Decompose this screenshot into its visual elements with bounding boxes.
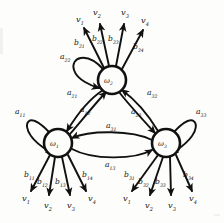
state-label-w3: ω3 xyxy=(158,140,167,150)
symbol-label-v4-bl: v4 xyxy=(88,194,96,205)
arc-label-b34: b34 xyxy=(183,171,194,181)
arc-label-a32: a32 xyxy=(147,89,158,99)
transition-a13 xyxy=(72,149,152,157)
arc-label-a33: a33 xyxy=(196,108,207,118)
arc-label-b22: b22 xyxy=(92,35,103,45)
arc-label-b13: b13 xyxy=(55,178,66,188)
arc-label-b31: b31 xyxy=(124,171,135,181)
state-label-w2: ω2 xyxy=(104,77,113,87)
arc-label-b33: b33 xyxy=(155,178,166,188)
arc-label-b24: b24 xyxy=(133,43,144,53)
symbol-label-v3-bl: v3 xyxy=(67,201,75,212)
arc-label-a23: a23 xyxy=(131,108,142,118)
arc-label-b21: b21 xyxy=(74,39,85,49)
arc-label-b14: b14 xyxy=(82,171,93,181)
arc-label-b12: b12 xyxy=(37,178,48,188)
scan-artifact-left xyxy=(0,28,3,54)
symbol-label-v2-br: v2 xyxy=(145,201,153,212)
arc-label-a22: a22 xyxy=(60,53,71,63)
scan-artifact-bottom xyxy=(214,214,220,216)
symbol-label-v2-bl: v2 xyxy=(44,201,52,212)
symbol-label-v1-top: v1 xyxy=(76,15,84,26)
emission-arrow-b13 xyxy=(62,157,70,195)
symbol-label-v3-br: v3 xyxy=(168,201,176,212)
arc-label-a21: a21 xyxy=(67,89,78,99)
arc-label-a12: a12 xyxy=(80,106,91,116)
arc-label-b11: b11 xyxy=(24,171,35,181)
symbol-label-v4-br: v4 xyxy=(189,194,197,205)
arc-label-a31: a31 xyxy=(106,122,117,132)
arc-label-a11: a11 xyxy=(15,108,26,118)
state-label-w1: ω1 xyxy=(50,140,59,150)
symbol-label-v2-top: v2 xyxy=(93,8,101,19)
arc-label-b32: b32 xyxy=(138,178,149,188)
transition-a31 xyxy=(72,132,152,140)
emission-arrow-b12 xyxy=(49,157,55,195)
arc-label-a13: a13 xyxy=(105,161,116,171)
symbol-label-v1-bl: v1 xyxy=(22,194,30,205)
arc-label-b23: b23 xyxy=(108,35,119,45)
emission-arrows-w1 xyxy=(31,155,86,195)
symbol-label-v3-top: v3 xyxy=(121,8,129,19)
symbol-label-v4-top: v4 xyxy=(141,16,149,27)
emission-arrow-b33 xyxy=(170,157,171,195)
symbol-label-v1-br: v1 xyxy=(123,194,131,205)
